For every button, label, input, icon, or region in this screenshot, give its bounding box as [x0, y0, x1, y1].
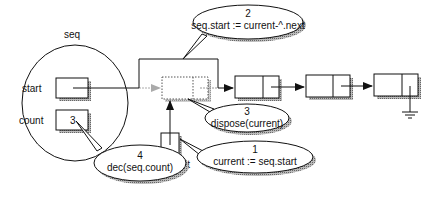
seq-record-circle [22, 45, 128, 161]
count-field-value: 3 [70, 115, 76, 126]
callout-4-step: 4 [137, 150, 143, 161]
callout-3-text: dispose(current) [211, 118, 283, 129]
callout-1-text: current := seq.start [213, 156, 297, 167]
callout-3-step: 3 [244, 106, 250, 117]
nil-ground-icon [402, 112, 418, 118]
callout-2-tail [183, 34, 207, 59]
callout-2-text: seq.start := current-^.next [191, 20, 305, 31]
callout-1-step: 1 [252, 144, 258, 155]
node-3 [374, 74, 418, 96]
callout-4-text: dec(seq.count) [107, 162, 173, 173]
linked-list-diagram: seq start count 3 current 2 seq.start [0, 0, 442, 197]
count-field-label: count [19, 115, 44, 126]
start-field-label: start [22, 83, 42, 94]
seq-label: seq [64, 29, 80, 40]
callout-2-step: 2 [245, 8, 251, 19]
